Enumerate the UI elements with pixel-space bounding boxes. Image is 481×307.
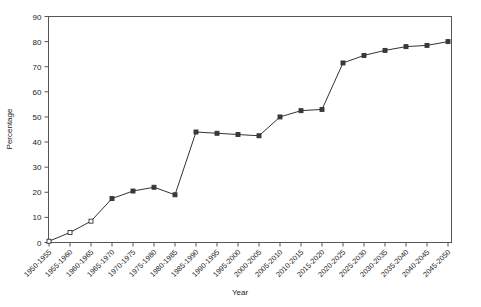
x-axis-title: Year: [232, 288, 249, 297]
data-point-marker: [383, 48, 387, 52]
data-point-marker: [446, 40, 450, 44]
data-point-marker: [194, 130, 198, 134]
data-point-marker: [320, 107, 324, 111]
y-tick-label: 10: [33, 213, 42, 222]
y-tick-label: 70: [33, 63, 42, 72]
data-point-marker: [236, 133, 240, 137]
y-axis-ticks: [45, 17, 49, 243]
data-point-marker: [278, 115, 282, 119]
data-point-marker: [257, 134, 261, 138]
x-axis-ticks: [49, 243, 448, 247]
chart-container: 0102030405060708090 1950-19551955-196019…: [0, 0, 481, 307]
y-tick-label: 50: [33, 113, 42, 122]
line-chart: 0102030405060708090 1950-19551955-196019…: [0, 0, 481, 307]
data-point-marker: [425, 43, 429, 47]
data-point-marker: [89, 219, 93, 223]
data-point-marker: [362, 53, 366, 57]
data-point-marker: [68, 230, 72, 234]
y-axis-title: Percentage: [5, 108, 14, 149]
x-axis-tick-labels: 1950-19551955-19601960-19651965-19701970…: [22, 248, 452, 279]
y-axis-tick-labels: 0102030405060708090: [33, 13, 42, 248]
data-point-marker: [110, 197, 114, 201]
plot-frame: [49, 17, 452, 243]
data-point-marker: [131, 189, 135, 193]
data-point-marker: [215, 131, 219, 135]
data-point-marker: [299, 109, 303, 113]
y-tick-label: 30: [33, 163, 42, 172]
data-point-marker: [341, 61, 345, 65]
data-point-marker: [47, 239, 51, 243]
y-tick-label: 80: [33, 38, 42, 47]
y-tick-label: 90: [33, 13, 42, 22]
y-tick-label: 40: [33, 138, 42, 147]
series-line: [49, 42, 448, 242]
series-markers: [47, 40, 450, 244]
data-point-marker: [404, 45, 408, 49]
y-tick-label: 0: [37, 239, 42, 248]
data-series: [47, 40, 450, 244]
data-point-marker: [152, 185, 156, 189]
data-point-marker: [173, 193, 177, 197]
y-tick-label: 60: [33, 88, 42, 97]
y-tick-label: 20: [33, 188, 42, 197]
plot-area-border: [49, 17, 452, 243]
